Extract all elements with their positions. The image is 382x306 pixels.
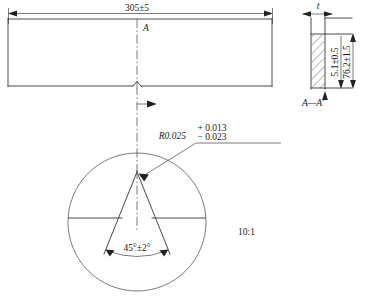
angle-dimension-text: 45°±2° <box>123 243 150 253</box>
notch-flank-right <box>137 172 170 254</box>
length-dimension-text: 305±5 <box>125 3 149 13</box>
dimension-arrow-left <box>8 11 17 17</box>
dimension-arrow-right <box>264 11 273 17</box>
thickness-arrow-left <box>302 11 311 17</box>
detail-view-group: 45°±2° R0.025 + 0.013 − 0.023 10:1 <box>68 123 281 291</box>
radius-value-text: R0.025 <box>158 131 186 141</box>
thickness-dimension-text: t <box>317 1 320 11</box>
detail-projection-line <box>137 86 157 172</box>
radius-leader <box>139 143 282 182</box>
notch-flank-left <box>104 172 137 254</box>
cut-plane-label-a: A <box>142 23 149 33</box>
main-view-group: A 305±5 <box>8 3 273 86</box>
section-label-text: A—A′ <box>301 98 325 108</box>
thickness-arrow-right <box>324 11 333 17</box>
technical-drawing-canvas: A 305±5 <box>0 0 382 306</box>
radius-tolerance-lower: − 0.023 <box>197 132 226 142</box>
view-direction-arrow <box>147 101 157 108</box>
outer-height-dimension: 76.2±1.5 <box>342 33 356 89</box>
detail-scale-note: 10:1 <box>238 227 255 237</box>
outer-height-text: 76.2±1.5 <box>342 45 352 79</box>
angle-dimension: 45°±2° <box>106 243 169 257</box>
section-hatching <box>312 35 325 89</box>
thickness-dimension: t <box>302 1 333 17</box>
inner-height-text: 5.1±0.5 <box>330 47 340 76</box>
engineering-drawing-svg: A 305±5 <box>0 0 382 306</box>
section-view-group: t 5.1±0.5 76. <box>301 1 356 108</box>
specimen-outline <box>8 19 272 86</box>
